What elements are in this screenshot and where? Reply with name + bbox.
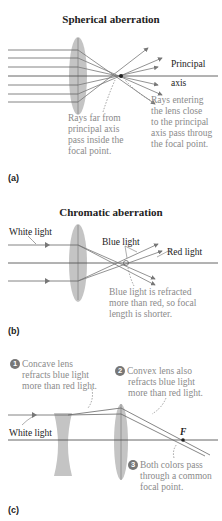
principal-axis-label-line1: Principal: [171, 59, 205, 70]
step3-number-badge: 3: [128, 460, 138, 470]
focal-point-label: F: [180, 427, 186, 438]
focal-point-a: [119, 74, 123, 78]
white-light-label-b: White light: [9, 227, 52, 238]
diagram-graphics: [0, 0, 222, 521]
step2-note: 2Convex lens also refracts blue light mo…: [115, 366, 203, 399]
panel-a-tag: (a): [8, 173, 19, 183]
principal-axis-label-line2: axis: [171, 78, 186, 89]
focal-point-f: [181, 438, 185, 442]
panel-b-title: Chromatic aberration: [0, 206, 222, 218]
white-light-label-c: White light: [9, 428, 52, 439]
note-far-rays: Rays far from principal axis pass inside…: [68, 113, 123, 157]
step1-number-badge: 1: [10, 359, 20, 369]
concave-lens: [54, 413, 72, 476]
red-light-label: Red light: [167, 247, 202, 258]
panel-c-tag: (c): [8, 505, 19, 515]
panel-b-tag: (b): [8, 326, 20, 336]
note-close-rays: Rays entering the lens close to the prin…: [151, 95, 212, 150]
step3-note: 3Both colors pass through a common focal…: [128, 460, 212, 493]
panel-a-title: Spherical aberration: [0, 13, 222, 25]
blue-light-label: Blue light: [102, 237, 140, 248]
note-chromatic: Blue light is refracted more than red, s…: [109, 287, 196, 320]
step2-number-badge: 2: [115, 366, 125, 376]
step1-note: 1Concave lens refracts blue light more t…: [10, 359, 97, 392]
